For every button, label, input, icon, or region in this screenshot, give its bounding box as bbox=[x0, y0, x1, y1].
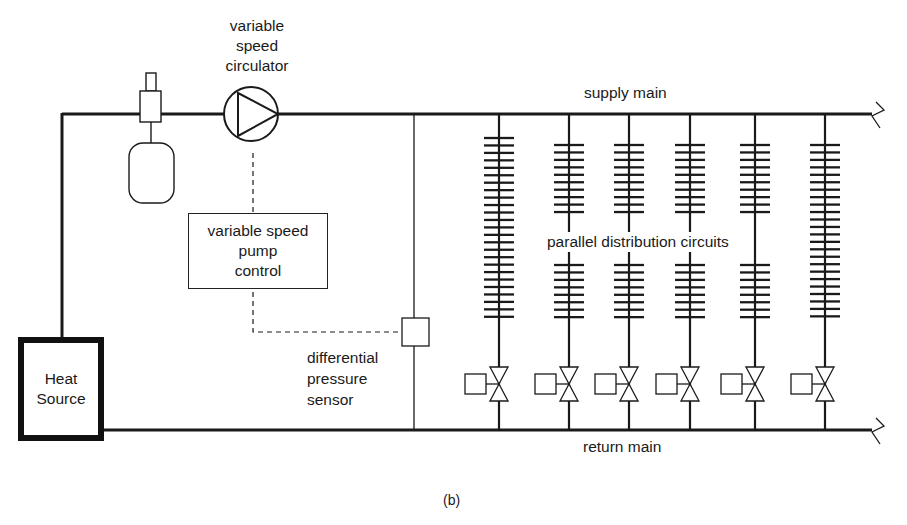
valve-actuator-icon bbox=[656, 374, 677, 394]
dp-sensor-line2: pressure bbox=[307, 368, 378, 389]
control-signal-wire-to-sensor bbox=[253, 292, 402, 332]
pump-control-label: variable speed pump control bbox=[208, 221, 309, 281]
return-main-label: return main bbox=[583, 437, 661, 457]
figure-caption: (b) bbox=[443, 490, 460, 510]
valve-actuator-icon bbox=[721, 374, 742, 394]
pump-control-line3: control bbox=[208, 261, 309, 281]
hydronic-system-diagram bbox=[0, 0, 907, 525]
zone-valve-icon bbox=[656, 367, 699, 401]
circuit-3 bbox=[595, 114, 644, 430]
dp-sensor-line3: sensor bbox=[307, 389, 378, 410]
dp-sensor-label: differential pressure sensor bbox=[307, 347, 378, 410]
valve-actuator-icon bbox=[535, 374, 556, 394]
heat-source-line2: Source bbox=[36, 389, 85, 409]
pump-control-line1: variable speed bbox=[208, 221, 309, 241]
distribution-circuits bbox=[465, 114, 840, 430]
valve-actuator-icon bbox=[465, 374, 486, 394]
circuit-6 bbox=[791, 114, 840, 430]
circulator-label: variable speed circulator bbox=[212, 16, 302, 76]
circuit-4 bbox=[656, 114, 705, 430]
zone-valve-icon bbox=[721, 367, 764, 401]
return-break-icon bbox=[872, 418, 884, 444]
circulator-label-line1: variable bbox=[212, 16, 302, 36]
valve-actuator-icon bbox=[595, 374, 616, 394]
circulator-pump-icon bbox=[224, 87, 278, 141]
circulator-label-line3: circulator bbox=[212, 56, 302, 76]
differential-pressure-sensor-icon bbox=[402, 318, 429, 346]
circuit-2 bbox=[535, 114, 584, 430]
heat-source-line1: Heat bbox=[36, 369, 85, 389]
supply-break-icon bbox=[872, 102, 884, 128]
zone-valve-icon bbox=[595, 367, 638, 401]
pump-control-line2: pump bbox=[208, 241, 309, 261]
circulator-label-line2: speed bbox=[212, 36, 302, 56]
air-separator-icon bbox=[140, 73, 161, 122]
zone-valve-icon bbox=[465, 367, 508, 401]
valve-actuator-icon bbox=[791, 374, 812, 394]
supply-main-label: supply main bbox=[584, 83, 667, 103]
heat-source-box: Heat Source bbox=[18, 337, 104, 441]
expansion-tank-icon bbox=[129, 143, 174, 203]
heat-source-label: Heat Source bbox=[36, 369, 85, 409]
dp-sensor-line1: differential bbox=[307, 347, 378, 368]
circuit-5 bbox=[721, 114, 770, 430]
pump-control-box: variable speed pump control bbox=[188, 213, 328, 289]
circuit-1 bbox=[465, 114, 514, 430]
zone-valve-icon bbox=[791, 367, 834, 401]
zone-valve-icon bbox=[535, 367, 578, 401]
parallel-circuits-label: parallel distribution circuits bbox=[545, 232, 731, 252]
